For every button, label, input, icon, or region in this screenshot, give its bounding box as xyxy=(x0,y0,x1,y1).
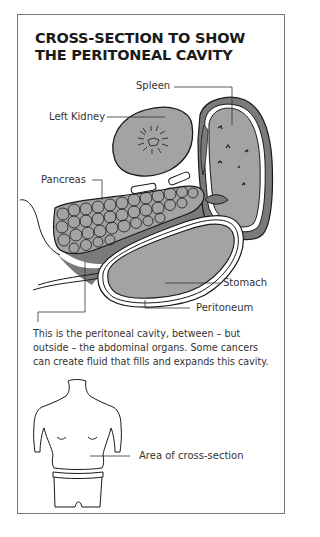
left-kidney xyxy=(113,107,193,176)
caption-text: This is the peritoneal cavity, between –… xyxy=(33,327,273,369)
torso-figure xyxy=(34,380,122,508)
label-left-kidney: Left Kidney xyxy=(49,111,105,122)
label-stomach: Stomach xyxy=(223,277,267,288)
pancreas-leader xyxy=(92,180,102,200)
label-peritoneum: Peritoneum xyxy=(196,302,253,313)
label-area-of-cross-section: Area of cross-section xyxy=(139,450,244,461)
label-pancreas: Pancreas xyxy=(41,174,86,185)
label-spleen: Spleen xyxy=(136,80,170,91)
